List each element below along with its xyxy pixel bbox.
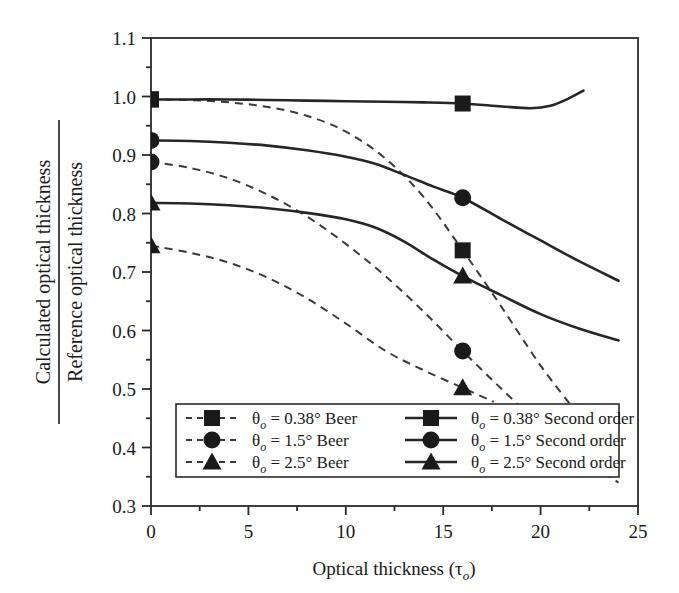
series-4-marker-1: [454, 189, 471, 206]
x-axis-title: Optical thickness (τo): [313, 558, 476, 583]
y-tick-label-0.9: 0.9: [112, 145, 136, 166]
series-4-marker-0: [143, 132, 160, 149]
chart-canvas: 0510152025 0.30.40.50.60.70.80.91.01.1 θ…: [0, 0, 679, 593]
series-2-marker-1: [453, 378, 472, 395]
series-0-marker-1: [455, 242, 471, 258]
legend-marker-0: [204, 410, 220, 426]
legend-marker-1: [204, 432, 221, 449]
y-tick-label-1.1: 1.1: [112, 28, 136, 49]
y-tick-label-0.8: 0.8: [112, 204, 136, 225]
y-tick-label-1.0: 1.0: [112, 87, 136, 108]
y-axis-ticks: [142, 38, 151, 506]
chart-legend: θo = 0.38° Beerθo = 1.5° Beerθo = 2.5° B…: [176, 404, 635, 477]
x-tick-label-0: 0: [146, 521, 156, 542]
y-tick-label-0.7: 0.7: [112, 262, 136, 283]
series-2-marker-0: [142, 236, 161, 253]
x-tick-label-10: 10: [336, 521, 355, 542]
chart-figure: 0510152025 0.30.40.50.60.70.80.91.01.1 θ…: [0, 0, 679, 593]
x-axis-ticks: [151, 506, 638, 515]
y-tick-label-0.6: 0.6: [112, 321, 136, 342]
x-tick-label-15: 15: [434, 521, 453, 542]
y-axis-tick-labels: 0.30.40.50.60.70.80.91.01.1: [112, 28, 136, 517]
series-1-marker-0: [143, 154, 160, 171]
series-line-0: [151, 99, 576, 411]
y-axis-title-denominator: Reference optical thickness: [64, 162, 87, 382]
y-tick-label-0.3: 0.3: [112, 496, 136, 517]
series-1-marker-1: [454, 342, 471, 359]
series-5-marker-1: [453, 267, 472, 284]
x-axis-tick-labels: 0510152025: [146, 521, 647, 542]
y-axis-title: Calculated optical thickness Reference o…: [32, 120, 87, 424]
series-line-3: [151, 91, 583, 109]
series-3-marker-0: [143, 91, 159, 107]
series-line-2: [151, 246, 494, 402]
legend-marker-4: [423, 432, 440, 449]
legend-marker-3: [423, 410, 439, 426]
series-3-marker-1: [455, 96, 471, 112]
y-axis-title-numerator: Calculated optical thickness: [32, 160, 55, 385]
y-tick-label-0.5: 0.5: [112, 379, 136, 400]
x-tick-label-25: 25: [629, 521, 648, 542]
y-tick-label-0.4: 0.4: [112, 438, 136, 459]
x-axis-title-text: Optical thickness (τo): [313, 558, 476, 583]
series-line-5: [151, 203, 619, 340]
x-tick-label-20: 20: [531, 521, 550, 542]
x-tick-label-5: 5: [244, 521, 254, 542]
data-markers: [142, 91, 473, 395]
